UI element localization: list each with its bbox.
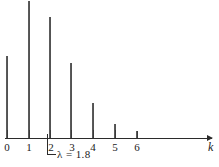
x-tick-1 [29,130,30,138]
x-tick-5 [115,130,116,138]
plot-area: 0 1 2 3 4 5 6 k λ = 1.8 [0,0,219,167]
x-tick-label-1: 1 [22,141,36,153]
stem-k0 [6,56,8,138]
poisson-stem-plot-figure: 0 1 2 3 4 5 6 k λ = 1.8 [0,0,219,167]
x-tick-4 [93,130,94,138]
x-tick-0 [7,130,8,138]
stem-k3 [70,63,72,138]
x-axis-label: k [208,140,213,155]
x-tick-label-0: 0 [0,141,14,153]
x-tick-label-5: 5 [108,141,122,153]
x-axis-line [5,138,212,139]
x-tick-3 [71,130,72,138]
x-tick-6 [137,131,138,138]
lambda-leader-horizontal [47,154,56,155]
x-tick-label-6: 6 [130,141,144,153]
stem-k1 [28,1,30,138]
stem-k2 [49,17,51,138]
lambda-leader-vertical [47,134,48,154]
lambda-annotation: λ = 1.8 [57,148,91,160]
x-tick-2 [50,130,51,138]
